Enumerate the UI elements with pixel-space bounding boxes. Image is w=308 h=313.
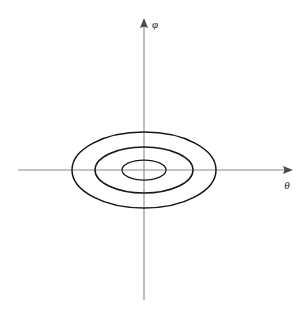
theta-axis-label: θ — [284, 179, 290, 191]
phi-axis-label: φ — [152, 18, 158, 30]
theta-axis-arrow-icon — [283, 166, 293, 174]
phase-portrait-figure: θ φ — [0, 0, 308, 313]
figure-container: θ φ — [0, 0, 308, 313]
phi-axis-arrow-icon — [140, 18, 148, 28]
phi-axis: φ — [140, 18, 158, 300]
